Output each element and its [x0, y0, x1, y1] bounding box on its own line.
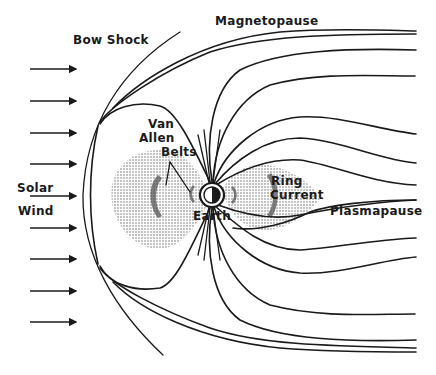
- wind-label: Wind: [18, 205, 54, 217]
- plasmapause-label: Plasmapause: [330, 205, 423, 217]
- bow-shock-label: Bow Shock: [73, 34, 149, 46]
- earth-label: Earth: [193, 210, 231, 222]
- diagram-canvas: [0, 0, 436, 375]
- solar-label: Solar: [17, 182, 54, 194]
- ring-label: Ring: [271, 175, 303, 187]
- tail-field-lines-north: [209, 49, 416, 185]
- van-allen-label-line1: Van: [148, 118, 174, 130]
- solar-wind-arrows: [30, 69, 76, 322]
- magnetopause-upper-1: [113, 30, 416, 108]
- plasmasphere-left: [111, 150, 210, 249]
- magnetosphere-diagram: Bow Shock Magnetopause Van Allen Belts S…: [0, 0, 436, 375]
- dayside-field-line-outer: [91, 126, 99, 264]
- van-allen-label-line2: Allen: [139, 132, 175, 144]
- tail-field-lines-south: [209, 200, 416, 341]
- magnetopause-upper-2: [100, 34, 416, 122]
- magnetopause-lower-1: [113, 282, 416, 352]
- earth-symbol: [200, 183, 224, 207]
- current-label: Current: [270, 189, 324, 201]
- van-allen-label-line3: Belts: [161, 146, 197, 158]
- magnetopause-label: Magnetopause: [215, 15, 318, 27]
